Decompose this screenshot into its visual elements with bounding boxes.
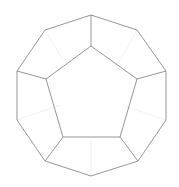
hidden-edge-line xyxy=(120,30,137,60)
outer-decagon xyxy=(17,15,166,176)
edge-line xyxy=(45,137,63,161)
hidden-edges xyxy=(17,30,166,176)
hidden-edge-line xyxy=(45,30,63,60)
hidden-edge-line xyxy=(17,105,60,120)
dodecahedron-diagram xyxy=(0,0,179,187)
edge-line xyxy=(120,137,138,161)
edge-line xyxy=(137,71,166,79)
edge-line xyxy=(17,71,46,79)
edge-spokes xyxy=(17,15,166,161)
front-pentagon-face xyxy=(46,46,137,137)
